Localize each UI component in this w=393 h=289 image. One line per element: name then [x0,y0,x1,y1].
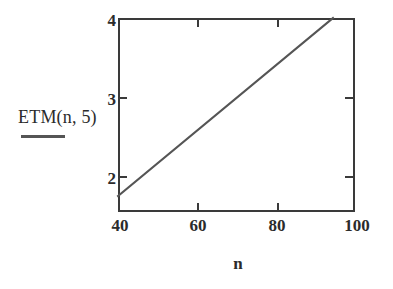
legend: ETM(n, 5) [18,108,116,138]
x-tick-label-60: 60 [190,217,207,234]
y-tick-label-3: 3 [100,91,116,108]
y-tick-label-4: 4 [100,12,116,29]
y-tick-label-2: 2 [100,170,116,187]
x-axis-title: n [233,255,242,272]
series-line [118,18,333,196]
x-tick-label-100: 100 [344,217,370,234]
x-tick-label-40: 40 [112,217,129,234]
chart-figure: 40 60 80 100 4 3 2 n ETM(n, 5) [0,0,393,289]
series-etm-n-5 [118,18,355,212]
legend-line-swatch [21,135,65,138]
legend-entry-label: ETM(n, 5) [18,108,116,127]
x-tick-label-80: 80 [269,217,286,234]
